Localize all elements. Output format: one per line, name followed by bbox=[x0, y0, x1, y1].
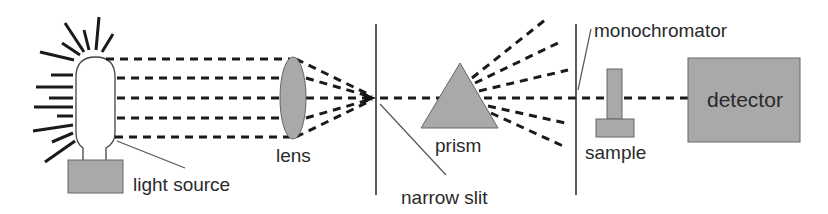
label-light-source: light source bbox=[133, 174, 230, 195]
prism-icon bbox=[421, 63, 498, 128]
leader-lines bbox=[117, 29, 591, 175]
spectrophotometer-diagram: light source lens narrow slit prism mono… bbox=[0, 0, 828, 214]
sample-holder-post bbox=[607, 69, 622, 119]
label-sample: sample bbox=[585, 142, 646, 163]
label-monochromator: monochromator bbox=[594, 20, 728, 41]
sample-holder-base bbox=[596, 119, 634, 137]
label-prism: prism bbox=[435, 135, 481, 156]
sample bbox=[596, 69, 634, 137]
label-narrow-slit: narrow slit bbox=[401, 187, 488, 208]
parallel-light-rays bbox=[106, 59, 290, 137]
light-source bbox=[68, 57, 123, 193]
bulb-base bbox=[68, 160, 123, 193]
lens-icon bbox=[280, 57, 306, 139]
focal-point bbox=[364, 93, 376, 103]
converging-light-rays bbox=[296, 59, 376, 137]
bulb-icon bbox=[76, 57, 115, 160]
label-lens: lens bbox=[276, 145, 311, 166]
label-detector: detector bbox=[707, 88, 783, 111]
